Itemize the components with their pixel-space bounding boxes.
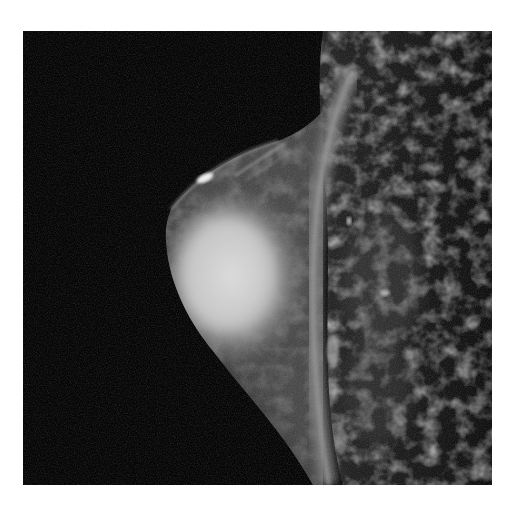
- scan-noise: [23, 31, 492, 485]
- mri-scan-render: [23, 31, 492, 485]
- mri-scan-image: [23, 31, 492, 485]
